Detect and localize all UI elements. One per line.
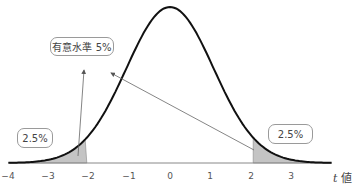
right-tail-label: 2.5% <box>268 124 313 144</box>
x-tick-label: −2 <box>81 171 94 181</box>
arrow-to-right-tail <box>111 73 254 150</box>
axis-unit: 値 <box>337 172 352 185</box>
x-tick-label: −4 <box>1 171 14 181</box>
x-tick-label: −1 <box>122 171 135 181</box>
x-tick-label: 1 <box>207 171 213 181</box>
x-tick-label: 2 <box>248 171 254 181</box>
t-distribution-plot <box>0 0 353 191</box>
x-axis-title: t 値 <box>333 169 352 185</box>
significance-level-label: 有意水準 5% <box>50 37 114 56</box>
x-tick-label: 0 <box>167 171 173 181</box>
x-tick-label: −3 <box>41 171 54 181</box>
x-tick-label: 3 <box>288 171 294 181</box>
left-tail-label: 2.5% <box>17 128 53 148</box>
